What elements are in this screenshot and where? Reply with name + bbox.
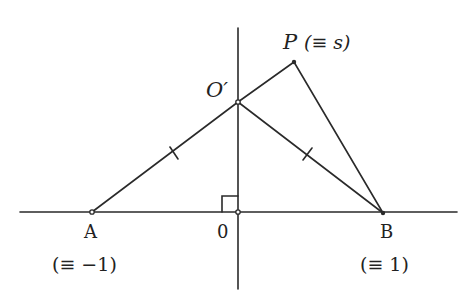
label-p: P: [282, 30, 298, 54]
right-angle-marker: [222, 196, 238, 212]
point-b-marker: [381, 211, 385, 215]
geometry-diagram: P (≡ s) O′ A (≡ −1) 0 B (≡ 1): [0, 0, 473, 298]
point-p-marker: [292, 60, 296, 64]
label-b-equiv: (≡ 1): [360, 253, 409, 275]
segment-a-oprime: [92, 102, 238, 212]
segment-oprime-p: [238, 62, 294, 102]
label-a-equiv: (≡ −1): [52, 253, 117, 275]
label-a: A: [83, 221, 98, 242]
label-oprime: O′: [206, 78, 228, 102]
label-origin: 0: [217, 221, 228, 242]
point-origin-marker: [236, 210, 240, 214]
segment-p-b: [294, 62, 383, 213]
point-oprime-marker: [236, 100, 240, 104]
segment-oprime-b: [238, 102, 383, 213]
label-p-equiv: (≡ s): [304, 31, 351, 53]
label-b: B: [380, 221, 393, 242]
point-a-marker: [90, 210, 94, 214]
